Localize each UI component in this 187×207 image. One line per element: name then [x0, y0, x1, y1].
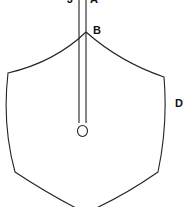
label-top-right: A [90, 0, 98, 5]
label-side-d: D [175, 97, 183, 109]
diagram-canvas: J A B D [0, 0, 187, 207]
label-apex-b: B [93, 24, 101, 36]
tube-bulb [78, 126, 88, 137]
label-top-left: J [67, 0, 73, 5]
